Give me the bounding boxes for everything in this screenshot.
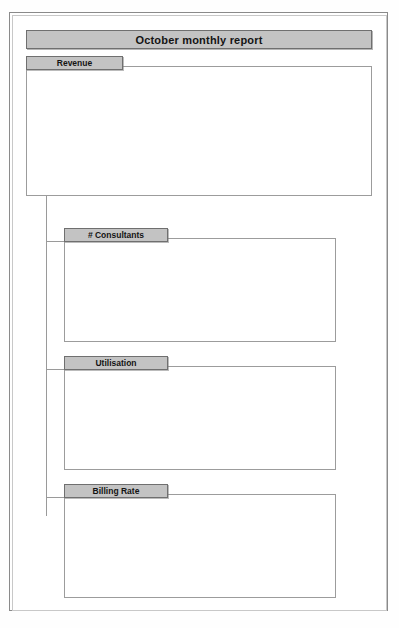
- panel-header-consultants: # Consultants: [64, 228, 168, 242]
- panel-body-consultants: [64, 238, 336, 342]
- panel-billing-rate: Billing Rate$50,000$40,000$30,000$20,000…: [64, 484, 336, 598]
- panel-header-revenue: Revenue: [26, 56, 123, 70]
- panel-body-revenue: [26, 66, 372, 196]
- connector-line-0: [46, 186, 47, 516]
- panel-body-utilisation: [64, 366, 336, 470]
- connector-line-2: [46, 369, 65, 370]
- connector-line-3: [46, 497, 65, 498]
- panel-body-billing-rate: [64, 494, 336, 598]
- panel-utilisation: Utilisation80%60%40%20%0%Nov- 98Dec- 98J…: [64, 356, 336, 470]
- panel-revenue: Revenue$900,000$800,000$700,000$600,000$…: [26, 56, 372, 196]
- connector-line-1: [46, 241, 65, 242]
- report-page: October monthly report Revenue$900,000$8…: [0, 0, 399, 628]
- panel-header-utilisation: Utilisation: [64, 356, 168, 370]
- panel-consultants: # Consultants403020100Nov- 98Dec- 98Jan-…: [64, 228, 336, 342]
- panel-header-billing-rate: Billing Rate: [64, 484, 168, 498]
- page-title: October monthly report: [26, 30, 372, 49]
